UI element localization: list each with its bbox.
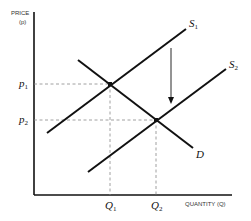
y-tick-p1: p1 <box>18 77 29 91</box>
y-tick-p2: p2 <box>18 113 29 127</box>
s1-label: S1 <box>189 17 199 31</box>
equilibrium-point-2 <box>154 118 158 122</box>
equilibrium-point-1 <box>108 82 112 86</box>
x-axis-label: QUANTITY (Q) <box>185 201 226 207</box>
y-axis-label-line2: (p) <box>19 19 26 25</box>
supply-curve-s1 <box>47 29 186 133</box>
d-label: D <box>195 148 204 160</box>
demand-curve-d <box>78 60 193 148</box>
s2-label: S2 <box>229 58 239 72</box>
x-tick-q2: Q2 <box>151 199 163 213</box>
supply-demand-chart: PRICE (p) QUANTITY (Q) S1 S2 D p1 p2 Q1 … <box>0 0 251 221</box>
y-axis-label-line1: PRICE <box>11 10 29 16</box>
shift-arrow-head-icon <box>168 97 174 104</box>
guide-lines <box>34 84 156 195</box>
x-tick-q1: Q1 <box>105 199 117 213</box>
